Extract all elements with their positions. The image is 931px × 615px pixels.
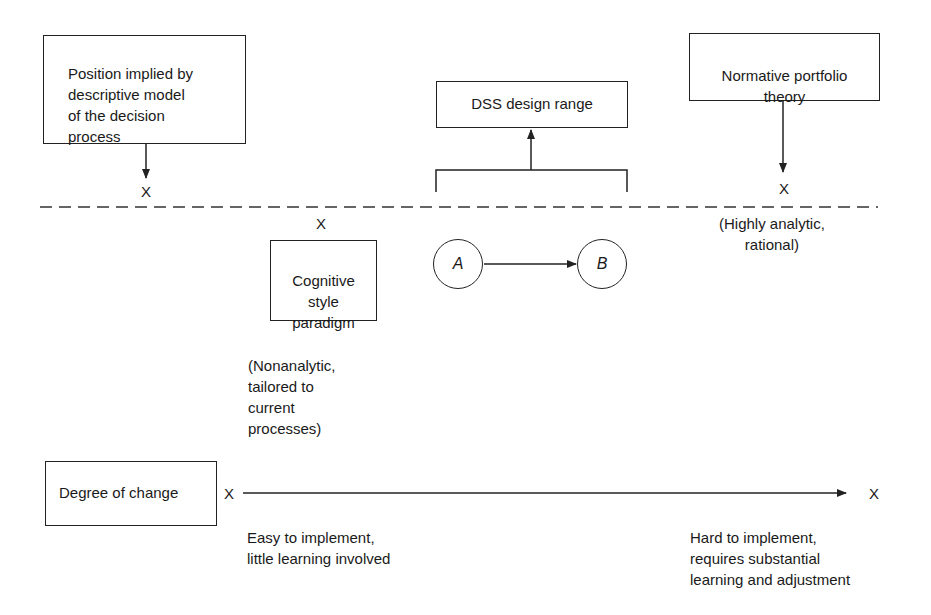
hard-implement-annotation: Hard to implement, requires substantial … <box>690 527 850 590</box>
degree-of-change-label: Degree of change <box>59 484 178 501</box>
change-end-x-marker: X <box>869 486 879 501</box>
cognitive-style-label: Cognitive style paradigm <box>292 272 355 331</box>
state-a-node: A <box>433 239 483 289</box>
cognitive-x-marker: X <box>316 216 326 231</box>
descriptive-model-label: Position implied by descriptive model of… <box>68 65 193 145</box>
normative-portfolio-label: Normative portfolio theory <box>722 67 848 105</box>
descriptive-x-marker: X <box>141 184 151 199</box>
normative-portfolio-box: Normative portfolio theory <box>689 33 880 101</box>
dss-design-range-label: DSS design range <box>471 95 593 112</box>
normative-x-marker: X <box>779 181 789 196</box>
change-start-x-marker: X <box>224 486 234 501</box>
easy-implement-annotation: Easy to implement, little learning invol… <box>247 527 390 569</box>
dss-design-range-box: DSS design range <box>436 81 628 128</box>
state-b-node: B <box>577 239 627 289</box>
descriptive-model-box: Position implied by descriptive model of… <box>43 35 246 144</box>
highly-analytic-annotation: (Highly analytic, rational) <box>719 213 825 255</box>
state-a-label: A <box>453 255 464 273</box>
dss-range-bracket <box>436 170 627 192</box>
state-b-label: B <box>597 255 608 273</box>
cognitive-style-box: Cognitive style paradigm <box>270 240 377 321</box>
nonanalytic-annotation: (Nonanalytic, tailored to current proces… <box>248 355 336 439</box>
degree-of-change-box: Degree of change <box>45 461 217 526</box>
